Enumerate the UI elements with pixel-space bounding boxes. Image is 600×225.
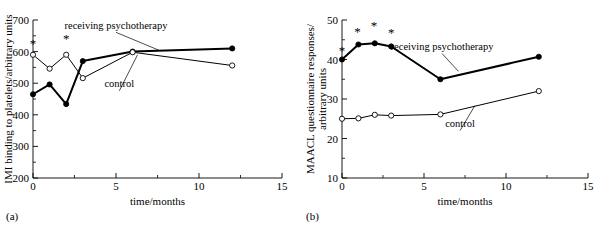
significance-asterisk: * <box>30 36 37 51</box>
data-point-open <box>372 112 377 117</box>
data-point-open <box>536 89 541 94</box>
panel-b-tag: (b) <box>306 210 319 222</box>
data-point-filled <box>64 101 69 106</box>
chart-b-canvas: 0510151020304050time/monthsMAACL questio… <box>300 0 600 225</box>
annotation-label-control: control <box>445 118 475 129</box>
y-axis-tick-label: 40 <box>327 54 339 66</box>
data-point-filled <box>230 46 235 51</box>
data-point-open <box>339 116 344 121</box>
y-axis-tick-label: 20 <box>327 133 339 145</box>
y-axis-tick-label: 300 <box>13 140 30 152</box>
data-point-open <box>356 116 361 121</box>
chart-a-canvas: 051015200300400500600700time/monthsIMI b… <box>0 0 300 225</box>
data-point-filled <box>47 82 52 87</box>
y-axis-title-line2: arbitrary units <box>316 68 328 130</box>
annotation-label-receiving-psychotherapy: receiving psychotherapy <box>65 20 169 31</box>
annotation-label-receiving-psychotherapy: receiving psychotherapy <box>391 41 495 52</box>
x-axis-tick-label: 10 <box>194 180 206 192</box>
data-point-filled <box>536 54 541 59</box>
data-point-open <box>30 52 35 57</box>
panel-a-tag: (a) <box>6 210 18 222</box>
y-axis-title-line1: MAACL questionnaire responses/ <box>304 23 316 174</box>
data-point-open <box>80 76 85 81</box>
significance-asterisk: * <box>339 43 346 58</box>
y-axis-tick-label: 400 <box>13 109 30 121</box>
y-axis-tick-label: 500 <box>13 77 30 89</box>
series-line-receiving-psychotherapy <box>33 48 232 104</box>
y-axis-tick-label: 200 <box>13 172 30 184</box>
data-point-open <box>389 113 394 118</box>
annotation-leader-line <box>116 32 159 50</box>
chart-panel-b: 0510151020304050time/monthsMAACL questio… <box>300 0 600 225</box>
data-point-filled <box>372 41 377 46</box>
data-point-filled <box>30 92 35 97</box>
annotation-label-control: control <box>104 78 134 89</box>
significance-asterisk: * <box>388 25 395 40</box>
x-axis-title: time/months <box>130 195 185 207</box>
significance-asterisk: * <box>354 24 361 39</box>
y-axis-tick-label: 600 <box>13 46 30 58</box>
y-axis-tick-label: 30 <box>327 93 339 105</box>
x-axis-tick-label: 15 <box>277 180 289 192</box>
y-axis-tick-label: 700 <box>13 14 30 26</box>
data-point-open <box>230 63 235 68</box>
x-axis-title: time/months <box>438 195 493 207</box>
x-axis-tick-label: 10 <box>501 180 513 192</box>
x-axis-tick-label: 0 <box>30 180 36 192</box>
x-axis-tick-label: 0 <box>339 180 345 192</box>
figure-container: 051015200300400500600700time/monthsIMI b… <box>0 0 600 225</box>
significance-asterisk: * <box>371 18 378 33</box>
x-axis-tick-label: 15 <box>583 180 595 192</box>
data-point-filled <box>356 42 361 47</box>
y-axis-tick-label: 50 <box>327 14 339 26</box>
data-point-filled <box>80 58 85 63</box>
data-point-open <box>438 112 443 117</box>
x-axis-tick-label: 5 <box>421 180 427 192</box>
chart-panel-a: 051015200300400500600700time/monthsIMI b… <box>0 0 300 225</box>
y-axis-title: IMI binding to platelets/arbitrary units <box>2 14 14 183</box>
data-point-open <box>64 52 69 57</box>
data-point-open <box>47 66 52 71</box>
data-point-filled <box>438 77 443 82</box>
x-axis-tick-label: 5 <box>113 180 119 192</box>
y-axis-tick-label: 10 <box>327 172 339 184</box>
data-point-open <box>130 50 135 55</box>
annotation-leader-line <box>442 54 458 72</box>
significance-asterisk: * <box>63 31 70 46</box>
y-axis-title: MAACL questionnaire responses/arbitrary … <box>304 23 328 174</box>
